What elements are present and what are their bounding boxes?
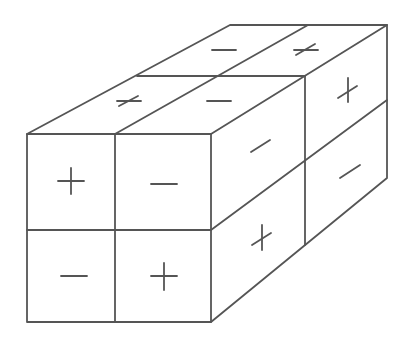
plus-sign (338, 78, 357, 102)
box-diagram (0, 0, 406, 340)
front-face-outline (27, 134, 211, 322)
top-face-column-divider (115, 25, 308, 134)
top-face-outline (27, 25, 387, 134)
minus-sign (251, 140, 270, 152)
plus-sign (58, 168, 84, 194)
right-face (211, 25, 387, 322)
plus-sign (252, 225, 271, 250)
front-signs (58, 168, 177, 290)
minus-sign (340, 165, 360, 178)
top-face (27, 25, 387, 134)
box-diagram-svg (0, 0, 406, 340)
right-face-outline (211, 25, 387, 322)
plus-sign (151, 263, 177, 290)
front-face (27, 134, 211, 322)
plus-sign (117, 96, 141, 106)
top-signs (117, 44, 318, 106)
plus-sign (294, 44, 318, 55)
